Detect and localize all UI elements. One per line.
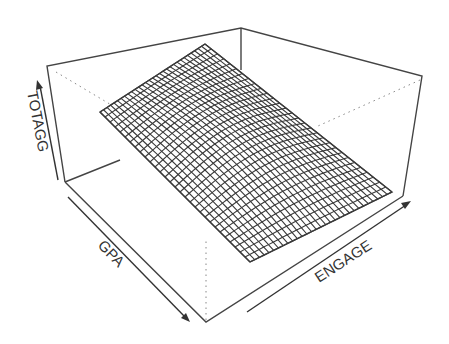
surface-mesh: [100, 44, 392, 262]
y-axis-label: ENGAGE: [311, 236, 374, 285]
x-axis-arrow: [68, 197, 190, 322]
surface-plot: TOTAGG GPA ENGAGE: [0, 0, 449, 344]
x-axis-label: GPA: [95, 236, 128, 270]
z-axis-label: TOTAGG: [24, 89, 53, 153]
